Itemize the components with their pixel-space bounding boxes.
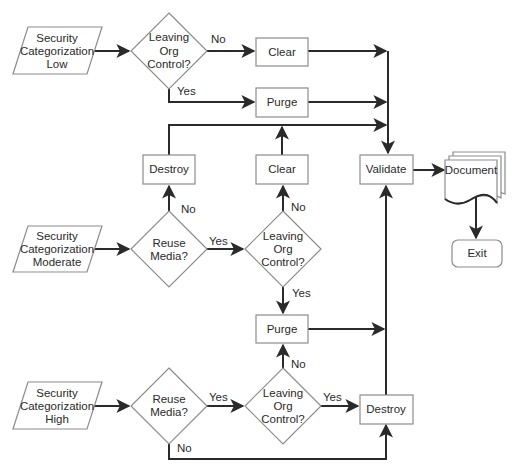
input-security-high: Security Categorization High	[13, 382, 102, 429]
input-security-low: Security Categorization Low	[13, 27, 102, 74]
decision-text: Leaving	[263, 230, 303, 242]
decision-text: Media?	[150, 250, 188, 262]
decision-text: Control?	[261, 413, 304, 425]
decision-text: Reuse	[152, 393, 185, 405]
decision-high-reuse-media: Reuse Media?	[131, 368, 207, 444]
edge-label-no: No	[177, 442, 192, 454]
terminal-label: Exit	[467, 247, 487, 259]
edge-label-yes: Yes	[292, 287, 311, 299]
decision-text: Org	[273, 400, 292, 412]
process-label: Clear	[268, 46, 296, 58]
decision-text: Leaving	[263, 387, 303, 399]
process-clear-low: Clear	[256, 38, 308, 66]
decision-text: Org	[159, 45, 178, 57]
decision-low-leaving-org-control: Leaving Org Control?	[131, 13, 207, 89]
decision-text: Leaving	[149, 31, 189, 43]
edge-label-yes: Yes	[323, 391, 342, 403]
edge-label-no: No	[291, 358, 306, 370]
process-label: Purge	[267, 96, 298, 108]
process-validate: Validate	[360, 155, 413, 184]
input-security-moderate: Security Categorization Moderate	[13, 226, 102, 272]
process-clear-moderate: Clear	[256, 155, 308, 184]
document-label: Document	[445, 164, 498, 176]
terminal-exit: Exit	[452, 240, 502, 267]
edge-label-yes: Yes	[209, 391, 228, 403]
document-stack: Document	[445, 152, 505, 204]
input-high-line2: Categorization	[20, 400, 94, 412]
decision-text: Org	[273, 243, 292, 255]
decision-text: Control?	[147, 58, 190, 70]
process-destroy-moderate: Destroy	[143, 155, 195, 184]
decision-moderate-reuse-media: Reuse Media?	[131, 211, 207, 287]
decision-text: Control?	[261, 256, 304, 268]
edge-label-no: No	[291, 201, 306, 213]
arrow-destroy-to-validate-bus	[169, 125, 386, 155]
decision-high-leaving-org-control: Leaving Org Control?	[245, 368, 321, 444]
process-label: Purge	[267, 323, 298, 335]
process-destroy-high: Destroy	[360, 395, 413, 424]
edge-label-no: No	[211, 33, 226, 45]
flowchart-canvas: Security Categorization Low Security Cat…	[0, 0, 515, 473]
input-low-line1: Security	[36, 32, 78, 44]
input-low-line2: Categorization	[20, 45, 94, 57]
process-label: Clear	[268, 163, 296, 175]
process-purge-low: Purge	[256, 88, 308, 117]
input-moderate-line3: Moderate	[33, 256, 82, 268]
input-low-line3: Low	[46, 58, 68, 70]
process-label: Validate	[366, 163, 407, 175]
edge-label-no: No	[181, 203, 196, 215]
decision-text: Media?	[150, 406, 188, 418]
decision-moderate-leaving-org-control: Leaving Org Control?	[245, 211, 321, 287]
edge-label-yes: Yes	[209, 235, 228, 247]
decision-text: Reuse	[152, 237, 185, 249]
input-moderate-line1: Security	[36, 230, 78, 242]
process-label: Destroy	[366, 403, 406, 415]
process-purge-mid: Purge	[256, 315, 308, 343]
input-high-line1: Security	[36, 387, 78, 399]
edge-label-yes: Yes	[177, 85, 196, 97]
input-high-line3: High	[45, 413, 69, 425]
input-moderate-line2: Categorization	[20, 243, 94, 255]
process-label: Destroy	[149, 163, 189, 175]
